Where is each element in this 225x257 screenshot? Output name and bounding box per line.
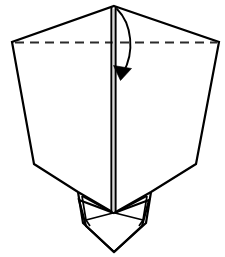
origami-diagram-root [0,0,225,257]
origami-figure-svg [0,0,225,257]
